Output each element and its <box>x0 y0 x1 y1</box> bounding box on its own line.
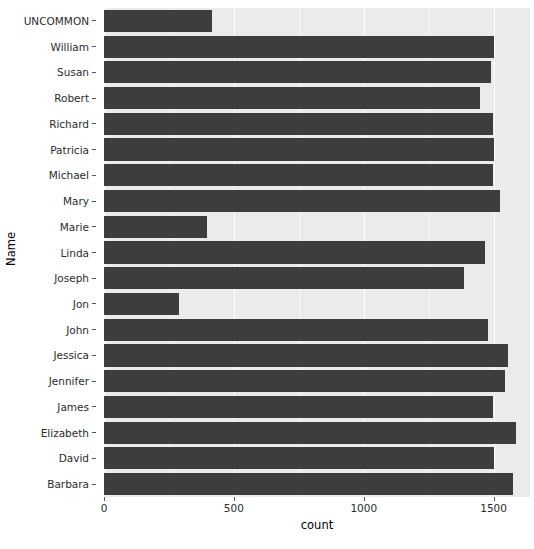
y-axis-tick-david: David <box>59 451 98 465</box>
bar <box>104 422 516 444</box>
y-axis-tick-mark <box>92 278 96 279</box>
y-axis-tick-mark <box>92 484 96 485</box>
y-axis-tick-mark <box>92 355 96 356</box>
y-axis-tick-joseph: Joseph <box>54 271 98 285</box>
y-axis-tick-label: Mary <box>63 195 89 207</box>
y-axis-tick-jennifer: Jennifer <box>49 374 98 388</box>
y-axis-tick-label: Linda <box>60 247 89 259</box>
y-axis-tick-label: Robert <box>54 92 89 104</box>
y-axis-tick-mark <box>92 252 96 253</box>
x-axis-tick-mark <box>364 497 365 501</box>
bar <box>104 36 494 58</box>
y-axis-tick-label: Michael <box>49 169 89 181</box>
x-axis-tick-mark <box>494 497 495 501</box>
bar <box>104 344 508 366</box>
plot-panel <box>104 8 530 497</box>
y-axis-tick-mark <box>92 432 96 433</box>
y-axis-tick-label: Joseph <box>54 272 89 284</box>
x-axis-title: count <box>104 518 530 532</box>
bar-chart: Name UNCOMMONWilliamSusanRobertRichardPa… <box>0 0 534 549</box>
y-axis-tick-uncommon: UNCOMMON <box>24 14 98 28</box>
y-axis-tick-john: John <box>66 323 98 337</box>
bar <box>104 216 207 238</box>
y-axis-tick-mark <box>92 98 96 99</box>
y-axis-tick-barbara: Barbara <box>47 477 98 491</box>
y-axis-tick-mark <box>92 406 96 407</box>
y-axis-tick-susan: Susan <box>57 65 98 79</box>
y-axis-tick-elizabeth: Elizabeth <box>41 426 98 440</box>
y-axis-tick-label: John <box>66 324 89 336</box>
y-axis-tick-mark <box>92 149 96 150</box>
x-axis-tick-label: 0 <box>101 502 108 514</box>
x-axis-tick-mark <box>234 497 235 501</box>
x-axis-tick-label: 500 <box>224 502 244 514</box>
y-axis-tick-mark <box>92 20 96 21</box>
y-axis-tick-jon: Jon <box>73 297 98 311</box>
bar <box>104 447 494 469</box>
y-axis-tick-label: Marie <box>60 221 89 233</box>
y-axis-tick-label: William <box>51 41 89 53</box>
bar <box>104 293 179 315</box>
y-axis-tick-label: Elizabeth <box>41 427 89 439</box>
bar <box>104 61 491 83</box>
y-axis-tick-label: Jon <box>73 298 89 310</box>
y-axis-tick-jessica: Jessica <box>53 348 98 362</box>
y-axis-tick-mark <box>92 381 96 382</box>
bar <box>104 113 493 135</box>
y-axis-tick-label: Barbara <box>47 478 89 490</box>
y-axis-tick-label: David <box>59 452 89 464</box>
bar <box>104 319 488 341</box>
bar <box>104 267 464 289</box>
x-axis: 050010001500 <box>104 497 530 517</box>
y-axis-tick-mark <box>92 123 96 124</box>
y-axis-tick-patricia: Patricia <box>50 143 98 157</box>
bar <box>104 164 493 186</box>
bar <box>104 396 493 418</box>
y-axis-tick-james: James <box>57 400 98 414</box>
y-axis-tick-mark <box>92 303 96 304</box>
x-axis-tick-label: 1500 <box>480 502 507 514</box>
bar <box>104 190 500 212</box>
y-axis-tick-label: Patricia <box>50 144 89 156</box>
bar <box>104 241 485 263</box>
y-axis-tick-label: James <box>57 401 89 413</box>
y-axis-tick-label: Jessica <box>53 349 89 361</box>
y-axis-tick-mark <box>92 201 96 202</box>
bar <box>104 370 505 392</box>
y-axis-tick-michael: Michael <box>49 168 98 182</box>
y-axis-tick-label: Susan <box>57 66 89 78</box>
y-axis-tick-mark <box>92 458 96 459</box>
x-axis-tick-mark <box>104 497 105 501</box>
y-axis-tick-mark <box>92 175 96 176</box>
y-axis-tick-richard: Richard <box>49 117 98 131</box>
y-axis-tick-william: William <box>51 40 98 54</box>
bar <box>104 87 480 109</box>
y-axis-tick-robert: Robert <box>54 91 98 105</box>
y-axis-tick-label: UNCOMMON <box>24 15 89 27</box>
y-axis-title-text: Name <box>4 232 18 266</box>
y-axis-tick-linda: Linda <box>60 246 98 260</box>
y-axis-tick-mark <box>92 72 96 73</box>
bar <box>104 473 513 495</box>
y-axis-tick-mark <box>92 226 96 227</box>
bar <box>104 10 212 32</box>
y-axis-tick-mark <box>92 329 96 330</box>
bar <box>104 138 494 160</box>
x-axis-tick-label: 1000 <box>350 502 377 514</box>
y-axis-tick-labels: UNCOMMONWilliamSusanRobertRichardPatrici… <box>18 8 98 497</box>
y-axis-tick-mark <box>92 46 96 47</box>
y-axis-tick-mary: Mary <box>63 194 98 208</box>
y-axis-tick-marie: Marie <box>60 220 98 234</box>
y-axis-tick-label: Richard <box>49 118 89 130</box>
y-axis-tick-label: Jennifer <box>49 375 89 387</box>
